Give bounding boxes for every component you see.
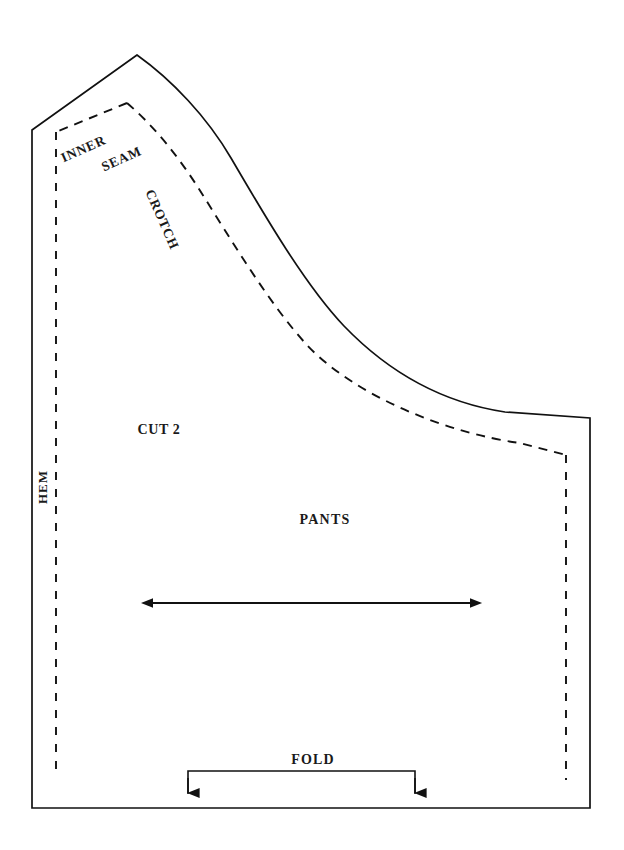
pattern-diagram: CUT 2 PANTS FOLD HEM INNER SEAM CROTCH bbox=[0, 0, 624, 850]
label-piece-name: PANTS bbox=[300, 512, 351, 527]
label-fold: FOLD bbox=[291, 752, 335, 767]
fold-bracket-left-leg bbox=[188, 771, 415, 794]
crotch-seam-dashed-line bbox=[127, 103, 566, 455]
label-cut-quantity: CUT 2 bbox=[138, 422, 181, 437]
label-crotch: CROTCH bbox=[142, 187, 182, 252]
label-seam: SEAM bbox=[99, 143, 144, 174]
label-hem: HEM bbox=[35, 470, 50, 504]
pattern-sheet: CUT 2 PANTS FOLD HEM INNER SEAM CROTCH bbox=[0, 0, 624, 850]
inner-seam-dashed-line bbox=[56, 103, 127, 132]
